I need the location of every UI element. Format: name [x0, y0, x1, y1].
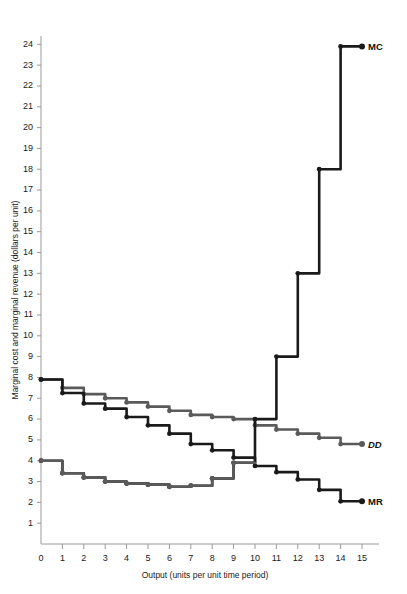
series-point-mc	[295, 271, 300, 276]
y-tick-label: 8	[28, 372, 33, 382]
y-tick-label: 4	[28, 455, 33, 465]
data-series-group	[39, 43, 365, 504]
series-point-mc-gray	[39, 458, 44, 463]
series-endpoint-mr	[359, 498, 365, 504]
y-tick-label: 11	[24, 309, 33, 319]
y-tick-label: 23	[23, 60, 33, 70]
x-tick-label: 13	[314, 553, 324, 563]
x-tick-label: 7	[188, 553, 193, 563]
x-tick-label: 0	[38, 553, 43, 563]
y-axis-title: Marginal cost and marginal revenue (doll…	[10, 200, 20, 399]
x-tick-label: 9	[231, 553, 236, 563]
y-tick-label: 9	[28, 351, 33, 361]
y-tick-label: 22	[23, 80, 33, 90]
x-tick-label: 10	[250, 553, 260, 563]
x-tick-label: 15	[357, 553, 367, 563]
series-point-mr	[81, 401, 86, 406]
series-point-mr	[231, 455, 236, 460]
y-tick-label: 20	[23, 122, 33, 132]
axes-group: 123456789101112131415161718192021222324 …	[23, 36, 379, 563]
x-tick-label: 11	[272, 553, 281, 563]
y-tick-label: 18	[23, 164, 33, 174]
x-axis-ticks: 0123456789101112131415	[38, 544, 367, 563]
series-point-mr	[210, 448, 215, 453]
series-label-mr: MR	[368, 496, 383, 507]
y-tick-label: 7	[28, 393, 33, 403]
series-point-mr	[124, 415, 129, 420]
series-line-mr	[41, 380, 362, 502]
y-tick-label: 13	[23, 268, 33, 278]
y-tick-label: 16	[23, 205, 33, 215]
series-point-mc	[338, 44, 343, 49]
series-line-dd	[41, 380, 362, 445]
chart-figure: 123456789101112131415161718192021222324 …	[0, 0, 407, 594]
series-point-dd	[167, 408, 172, 413]
series-point-dd	[103, 396, 108, 401]
y-tick-label: 5	[28, 434, 33, 444]
series-point-dd	[231, 417, 236, 422]
series-point-dd	[146, 404, 151, 409]
series-point-mr	[295, 477, 300, 482]
y-tick-label: 6	[28, 413, 33, 423]
y-tick-label: 10	[23, 330, 33, 340]
series-point-mc-gray	[231, 460, 236, 465]
series-point-mc-gray	[167, 484, 172, 489]
series-line-mc	[41, 46, 362, 486]
y-tick-label: 19	[23, 143, 33, 153]
x-tick-label: 3	[103, 553, 108, 563]
y-tick-label: 21	[23, 101, 33, 111]
x-tick-label: 4	[124, 553, 129, 563]
x-tick-label: 8	[210, 553, 215, 563]
series-point-mr	[338, 499, 343, 504]
series-point-mc-gray	[81, 475, 86, 480]
x-tick-label: 2	[81, 553, 86, 563]
series-point-mc-gray	[146, 482, 151, 487]
series-point-mc-gray	[103, 479, 108, 484]
series-point-mc-gray	[60, 471, 65, 476]
series-endpoint-dd	[359, 441, 365, 447]
series-endpoint-mc	[359, 43, 365, 49]
y-tick-label: 1	[28, 518, 33, 528]
series-point-mr	[146, 423, 151, 428]
series-label-dd: DD	[368, 439, 382, 450]
y-tick-label: 14	[23, 247, 33, 257]
y-axis-ticks: 123456789101112131415161718192021222324	[23, 39, 41, 528]
series-point-mr	[39, 377, 44, 382]
series-point-mc	[274, 354, 279, 359]
y-tick-label: 24	[23, 39, 33, 49]
series-point-mr	[103, 406, 108, 411]
series-point-mc-gray	[124, 481, 129, 486]
series-point-mr	[167, 431, 172, 436]
series-point-dd	[295, 431, 300, 436]
series-point-mr	[60, 391, 65, 396]
y-tick-label: 3	[28, 476, 33, 486]
series-point-mr	[274, 470, 279, 475]
series-point-mr	[317, 487, 322, 492]
series-point-dd	[188, 413, 193, 418]
x-axis-title: Output (units per unit time period)	[142, 570, 269, 580]
series-point-mc	[317, 167, 322, 172]
x-tick-label: 6	[167, 553, 172, 563]
y-tick-label: 12	[23, 289, 33, 299]
step-chart-svg: 123456789101112131415161718192021222324 …	[0, 0, 407, 594]
series-point-mr	[188, 442, 193, 447]
series-point-dd	[274, 427, 279, 432]
series-point-mr	[253, 464, 258, 469]
series-point-mc-gray	[188, 483, 193, 488]
series-point-mc	[253, 417, 258, 422]
series-point-dd	[124, 400, 129, 405]
series-point-dd	[317, 435, 322, 440]
series-point-dd	[338, 442, 343, 447]
series-label-mc: MC	[368, 41, 383, 52]
y-tick-label: 17	[23, 184, 33, 194]
series-point-dd	[210, 415, 215, 420]
x-tick-label: 14	[336, 553, 346, 563]
x-tick-label: 1	[60, 553, 65, 563]
y-tick-label: 2	[28, 497, 33, 507]
x-tick-label: 12	[293, 553, 303, 563]
x-tick-label: 5	[145, 553, 150, 563]
y-tick-label: 15	[23, 226, 33, 236]
series-point-mc-gray	[210, 476, 215, 481]
